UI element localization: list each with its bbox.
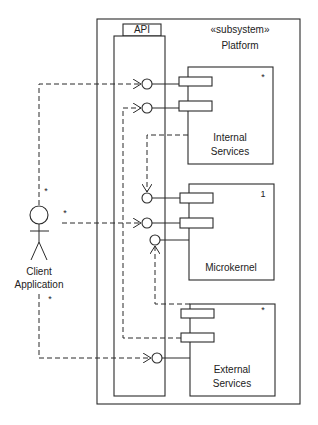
component-external-services: * External Services xyxy=(181,304,275,396)
port-external-1 xyxy=(181,309,214,318)
port-microkernel-1 xyxy=(180,193,213,203)
component-label-line2: Services xyxy=(211,146,249,157)
component-internal-services: * Internal Services xyxy=(179,67,273,164)
actor-head xyxy=(30,206,48,224)
interface-circle xyxy=(152,353,162,363)
api-label: API xyxy=(134,24,150,35)
component-label-line2: Services xyxy=(213,378,251,389)
component-label-line1: External xyxy=(214,364,251,375)
actor-label-line2: Application xyxy=(15,279,64,290)
component-label-line1: Internal xyxy=(213,132,246,143)
component-label-line1: Microkernel xyxy=(205,262,257,273)
subsystem-stereotype: «subsystem» xyxy=(211,24,270,35)
component-diagram: «subsystem» Platform API * Internal Serv… xyxy=(0,0,318,425)
interface-circle xyxy=(142,218,152,228)
multiplicity-external: * xyxy=(261,305,265,315)
interface-circle xyxy=(142,193,152,203)
actor-client-application: Client Application * * * xyxy=(15,186,68,304)
interface-circle xyxy=(142,103,152,113)
multiplicity-microkernel: 1 xyxy=(260,189,265,199)
actor-multiplicity: * xyxy=(63,208,67,218)
component-microkernel: 1 Microkernel xyxy=(180,184,274,280)
api-package: API xyxy=(114,24,165,396)
interface-circle xyxy=(142,79,152,89)
interface-circle xyxy=(150,235,160,245)
port-external-2 xyxy=(181,333,214,342)
multiplicity-internal: * xyxy=(261,72,265,82)
actor-multiplicity: * xyxy=(48,294,52,304)
port-internal-2 xyxy=(179,101,212,111)
port-internal-1 xyxy=(179,77,212,86)
subsystem-name: Platform xyxy=(221,40,258,51)
port-microkernel-2 xyxy=(180,218,213,228)
actor-multiplicity: * xyxy=(44,186,48,196)
actor-label-line1: Client xyxy=(26,266,52,277)
